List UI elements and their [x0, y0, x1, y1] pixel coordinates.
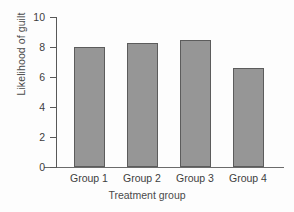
y-tick-mark-8 — [50, 47, 57, 48]
bar-group-3 — [180, 40, 211, 167]
x-axis-title: Treatment group — [0, 189, 294, 201]
y-tick-label-10: 10 — [25, 12, 45, 22]
y-tick-mark-0 — [50, 167, 57, 168]
bar-group-2 — [127, 43, 158, 168]
y-tick-label-4: 4 — [25, 102, 45, 112]
y-tick-label-2: 2 — [25, 132, 45, 142]
bar-group-1 — [74, 47, 105, 167]
bar-chart: Likelihood of guilt 10 8 6 4 2 0 Group 1… — [0, 0, 294, 212]
y-tick-mark-6 — [50, 77, 57, 78]
y-tick-label-8: 8 — [25, 42, 45, 52]
y-axis-line — [56, 17, 57, 167]
x-tick-label-group-4: Group 4 — [215, 172, 281, 184]
y-tick-mark-2 — [50, 137, 57, 138]
bar-group-4 — [233, 68, 264, 167]
y-tick-label-0: 0 — [25, 162, 45, 172]
x-axis-line — [44, 167, 284, 168]
y-tick-label-6: 6 — [25, 72, 45, 82]
y-tick-mark-4 — [50, 107, 57, 108]
y-tick-mark-10 — [50, 17, 57, 18]
